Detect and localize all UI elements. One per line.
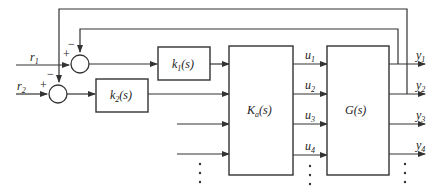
svg-text:r2: r2 [17, 79, 26, 95]
svg-text:u2: u2 [305, 78, 315, 94]
block-ka: Ka(s) [229, 46, 293, 175]
plus-sign: + [40, 78, 47, 92]
svg-text:u1: u1 [305, 48, 315, 64]
block-diagram: r1 r2 + − + − k1(s) k2(s) Ka [0, 0, 442, 192]
output-y3: y3 [389, 108, 425, 124]
signal-u4: u4 [293, 139, 327, 155]
svg-text:y4: y4 [415, 138, 425, 154]
svg-text:r1: r1 [30, 50, 39, 66]
svg-text:k2(s): k2(s) [110, 88, 132, 104]
block-g: G(s) [327, 46, 389, 175]
svg-text:u4: u4 [305, 139, 315, 155]
svg-text:G(s): G(s) [345, 103, 366, 117]
svg-text:u3: u3 [305, 108, 315, 124]
output-y4: y4 [389, 138, 425, 154]
summing-junction-2: + − [40, 67, 67, 103]
ellipsis-u-signals [309, 165, 311, 185]
svg-text:k1(s): k1(s) [172, 57, 194, 73]
summing-junction-1: + − [63, 37, 89, 73]
signal-u2: u2 [293, 78, 327, 94]
block-k1: k1(s) [158, 47, 210, 80]
ellipsis-ka-inputs [199, 163, 201, 183]
signal-u1: u1 [293, 48, 327, 64]
svg-text:y1: y1 [415, 48, 425, 64]
svg-text:Ka(s): Ka(s) [246, 103, 272, 119]
signal-u3: u3 [293, 108, 327, 124]
svg-text:y3: y3 [415, 108, 425, 124]
ellipsis-y-outputs [404, 163, 406, 183]
block-k2: k2(s) [96, 79, 148, 112]
svg-text:y2: y2 [415, 78, 425, 94]
minus-sign: − [47, 67, 54, 81]
input-r1: r1 [16, 50, 69, 66]
minus-sign: − [68, 37, 75, 51]
